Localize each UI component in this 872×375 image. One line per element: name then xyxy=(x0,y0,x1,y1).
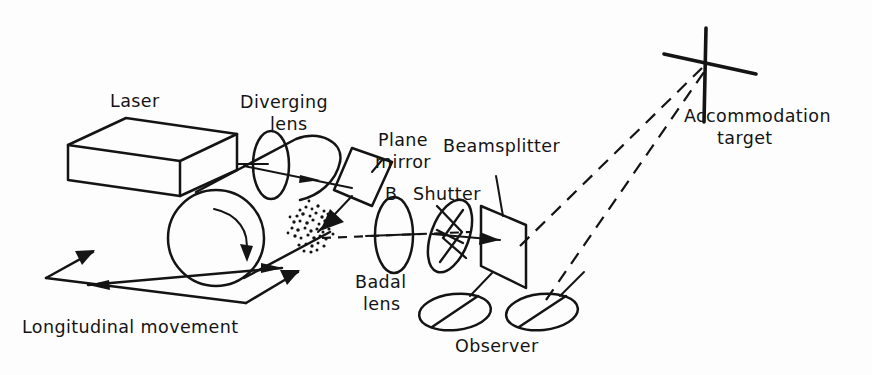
label-longitudinal-movement: Longitudinal movement xyxy=(22,317,238,337)
label-badal-marker: B xyxy=(385,184,397,204)
label-diverging-lens-line2: lens xyxy=(270,114,307,134)
label-beamsplitter: Beamsplitter xyxy=(443,136,560,156)
label-badal-lens-line1: Badal xyxy=(355,272,406,292)
observer-left-sightline xyxy=(470,273,492,296)
label-diverging-lens-line1: Diverging xyxy=(240,92,328,112)
optical-diagram-figure: Laser Diverging lens Plane mirror B Shut… xyxy=(0,0,872,375)
beamsplitter-leader xyxy=(496,176,503,216)
label-shutter: Shutter xyxy=(413,184,481,204)
observer-eye-right xyxy=(504,272,584,334)
beamsplitter xyxy=(481,176,526,288)
target-beam-paths xyxy=(520,68,704,300)
label-badal-lens-line2: lens xyxy=(363,294,400,314)
label-plane-mirror-line1: Plane xyxy=(378,130,428,150)
label-plane-mirror-line2: mirror xyxy=(375,152,431,172)
observer-eye-left xyxy=(417,273,492,334)
shutter xyxy=(419,194,481,278)
label-observer: Observer xyxy=(455,336,539,356)
diagram-canvas: Laser Diverging lens Plane mirror B Shut… xyxy=(0,0,872,375)
label-accommodation-target-line2: target xyxy=(717,128,773,148)
label-laser: Laser xyxy=(110,91,160,111)
observation-beam-path xyxy=(322,232,500,245)
label-accommodation-target-line1: Accommodation xyxy=(684,106,831,126)
